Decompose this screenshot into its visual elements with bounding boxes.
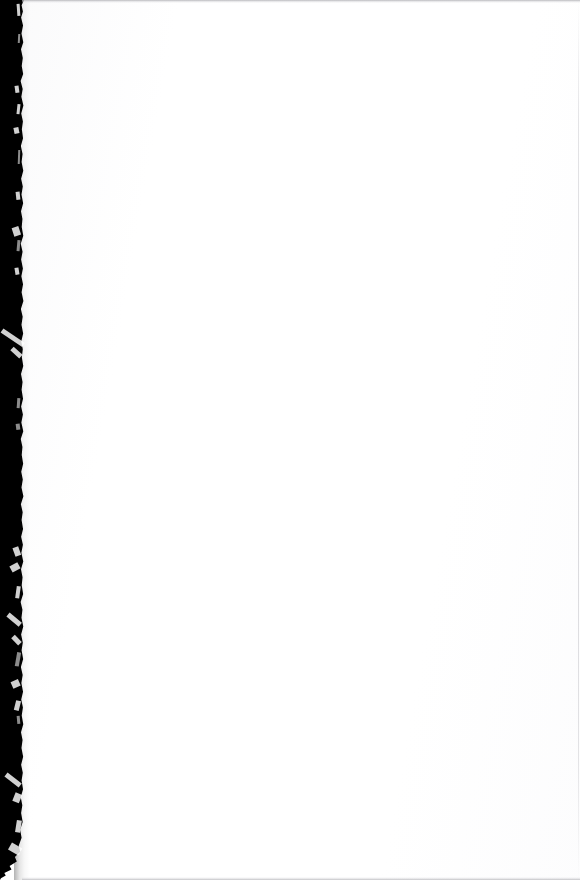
page-content-area <box>60 56 536 824</box>
scanned-page <box>0 0 580 880</box>
